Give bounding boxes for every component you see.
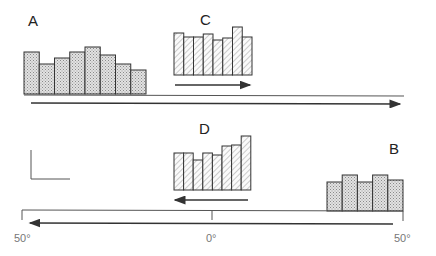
histogram-bar — [212, 155, 222, 190]
arrow-right-long — [31, 103, 400, 104]
upper-baseline — [24, 95, 404, 96]
histogram-bar — [213, 40, 223, 75]
histogram-bar — [342, 175, 357, 211]
arrow-left-long — [30, 223, 393, 224]
diagram: A C D B 50° 0° 50° — [0, 0, 436, 256]
scale-bar — [31, 150, 70, 179]
histogram-bar — [24, 52, 39, 94]
histogram-bar — [184, 153, 194, 190]
label-a: A — [28, 12, 38, 29]
label-d: D — [199, 120, 210, 137]
histogram-bar — [39, 64, 54, 94]
histogram-bar — [194, 37, 204, 75]
histogram-c — [174, 27, 252, 75]
histogram-bar — [203, 34, 213, 75]
tick-label-right: 50° — [394, 232, 411, 244]
histogram-bar — [203, 153, 213, 190]
histogram-bar — [184, 37, 194, 75]
histogram-bar — [241, 136, 251, 190]
histogram-d — [174, 136, 251, 190]
histogram-bar — [193, 160, 203, 190]
tick-label-left: 50° — [14, 232, 31, 244]
histogram-bar — [116, 64, 131, 94]
histogram-bar — [357, 182, 372, 211]
histogram-bar — [174, 153, 184, 190]
histogram-bar — [85, 47, 100, 94]
histogram-bar — [174, 33, 184, 75]
histogram-bar — [131, 70, 146, 94]
histogram-bar — [388, 180, 403, 211]
histogram-bar — [242, 37, 252, 75]
histogram-bar — [327, 182, 342, 211]
histogram-b — [327, 175, 403, 211]
histogram-a — [24, 47, 146, 94]
histogram-bar — [373, 175, 388, 211]
label-b: B — [389, 140, 399, 157]
histogram-bar — [70, 52, 85, 94]
label-c: C — [200, 11, 211, 28]
histogram-bar — [232, 145, 242, 190]
histogram-bar — [223, 38, 233, 75]
histogram-bar — [233, 27, 243, 75]
tick-label-center: 0° — [206, 232, 217, 244]
histogram-bar — [222, 146, 232, 190]
histogram-bar — [55, 58, 70, 94]
histogram-bar — [100, 55, 115, 94]
